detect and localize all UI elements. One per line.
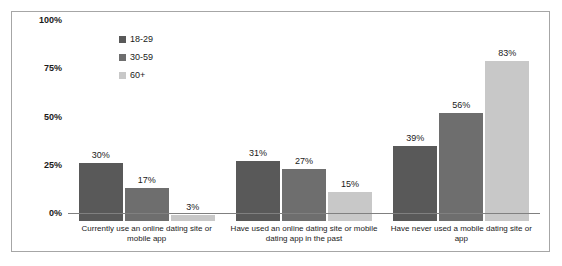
bar-value-label: 56% [439, 100, 483, 111]
y-axis: 0%25%50%75%100% [12, 20, 62, 221]
bar-rect [439, 113, 483, 221]
y-axis-tick-50: 50% [18, 112, 62, 122]
bar-rect [485, 61, 529, 221]
category-label-3: Have never used a mobile dating site or … [387, 224, 536, 244]
x-axis-baseline [68, 213, 540, 214]
bar-group-2: 31%27%15% [225, 20, 382, 221]
bar-value-label: 15% [328, 179, 372, 190]
bar-60-plus-cat3[interactable]: 83% [485, 28, 529, 221]
y-axis-tick-75: 75% [18, 63, 62, 73]
bar-rect [171, 215, 215, 221]
bar-group-1: 30%17%3% [68, 20, 225, 221]
bar-18-29-cat1[interactable]: 30% [79, 28, 123, 221]
bar-18-29-cat3[interactable]: 39% [393, 28, 437, 221]
category-label-1: Currently use an online dating site or m… [72, 224, 221, 244]
bar-30-59-cat3[interactable]: 56% [439, 28, 483, 221]
bar-value-label: 27% [282, 156, 326, 167]
bar-60-plus-cat2[interactable]: 15% [328, 28, 372, 221]
bar-value-label: 3% [171, 202, 215, 213]
y-axis-tick-100: 100% [18, 15, 62, 25]
bar-18-29-cat2[interactable]: 31% [236, 28, 280, 221]
bar-value-label: 30% [79, 150, 123, 161]
bar-value-label: 39% [393, 133, 437, 144]
category-label-2: Have used an online dating site or mobil… [229, 224, 378, 244]
chart-frame: 0%25%50%75%100% 18-29 30-59 60+ 30%17%3%… [11, 11, 550, 252]
bar-60-plus-cat1[interactable]: 3% [171, 28, 215, 221]
bar-value-label: 17% [125, 175, 169, 186]
bar-rect [125, 188, 169, 221]
bar-30-59-cat1[interactable]: 17% [125, 28, 169, 221]
y-axis-tick-25: 25% [18, 160, 62, 170]
category-labels: Currently use an online dating site or m… [68, 224, 540, 254]
bar-30-59-cat2[interactable]: 27% [282, 28, 326, 221]
y-axis-tick-0: 0% [18, 208, 62, 218]
bar-rect [328, 192, 372, 221]
bar-value-label: 83% [485, 48, 529, 59]
bar-group-3: 39%56%83% [383, 20, 540, 221]
bars-layer: 30%17%3%31%27%15%39%56%83% [68, 20, 540, 221]
bar-value-label: 31% [236, 148, 280, 159]
bar-rect [393, 146, 437, 221]
